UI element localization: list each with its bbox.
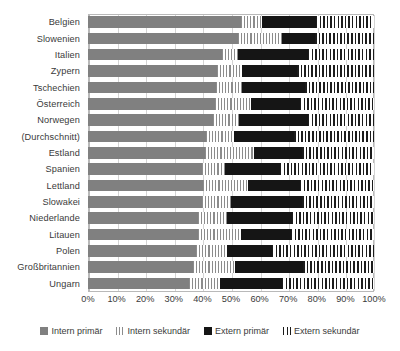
stacked-bar: [88, 229, 374, 241]
legend-item-intern-primaer[interactable]: Intern primär: [40, 326, 102, 336]
bar-row: [88, 96, 374, 112]
y-axis-label: Zypern: [0, 63, 84, 79]
bar-row: [88, 177, 374, 193]
bar-segment-intern-primaer: [88, 229, 198, 241]
stacked-bar: [88, 147, 374, 159]
legend-swatch-icon-intern-sekundaer: [116, 327, 124, 335]
bar-segment-intern-sekundaer: [238, 33, 282, 45]
y-axis-label: Norwegen: [0, 112, 84, 128]
bar-row: [88, 210, 374, 226]
bar-segment-extern-sekundaer: [292, 212, 374, 224]
bar-segment-intern-primaer: [88, 278, 189, 290]
x-axis-tick-labels: 0%10%20%30%40%50%60%70%80%90%100%: [88, 294, 374, 310]
y-axis-label: Niederlande: [0, 210, 84, 226]
legend-item-extern-sekundaer[interactable]: Extern sekundär: [283, 326, 360, 336]
bar-segment-intern-primaer: [88, 33, 238, 45]
bar-segment-extern-primaer: [220, 278, 283, 290]
bar-row: [88, 128, 374, 144]
bar-segment-intern-sekundaer: [217, 65, 243, 77]
gridline-100: [374, 15, 375, 291]
y-axis-label: Slowakei: [0, 194, 84, 210]
bar-row: [88, 112, 374, 128]
bar-segment-intern-sekundaer: [206, 131, 234, 143]
bar-segment-intern-primaer: [88, 147, 205, 159]
bar-segment-extern-primaer: [241, 229, 291, 241]
stacked-bar: [88, 212, 374, 224]
bar-segment-intern-sekundaer: [189, 278, 219, 290]
bar-segment-intern-primaer: [88, 65, 217, 77]
legend-swatch-icon-extern-primaer: [204, 327, 212, 335]
legend-item-extern-primaer[interactable]: Extern primär: [204, 326, 269, 336]
y-axis-label: Spanien: [0, 161, 84, 177]
stacked-bar: [88, 196, 374, 208]
bar-segment-extern-primaer: [239, 114, 308, 126]
bar-row: [88, 14, 374, 30]
bar-row: [88, 276, 374, 292]
bar-segment-intern-primaer: [88, 212, 198, 224]
bar-segment-extern-sekundaer: [316, 16, 374, 28]
bar-segment-intern-primaer: [88, 16, 241, 28]
x-axis-tick-label: 80%: [308, 294, 326, 304]
bar-row: [88, 194, 374, 210]
bar-segment-intern-primaer: [88, 261, 193, 273]
y-axis-label: Estland: [0, 145, 84, 161]
bar-segment-extern-primaer: [225, 163, 279, 175]
bar-segment-extern-primaer: [238, 49, 308, 61]
bar-segment-intern-sekundaer: [216, 82, 242, 94]
bar-segment-extern-sekundaer: [315, 33, 374, 45]
legend-label: Extern primär: [215, 326, 269, 336]
stacked-bar: [88, 131, 374, 143]
bar-segment-extern-sekundaer: [297, 65, 374, 77]
x-axis-tick-label: 20%: [136, 294, 154, 304]
bar-segment-extern-sekundaer: [302, 196, 374, 208]
x-axis-tick-label: 60%: [250, 294, 268, 304]
bar-segment-extern-sekundaer: [303, 261, 374, 273]
x-axis-tick-label: 90%: [336, 294, 354, 304]
bar-segment-extern-primaer: [282, 33, 315, 45]
bar-segment-extern-sekundaer: [291, 229, 374, 241]
bar-segment-intern-sekundaer: [193, 261, 235, 273]
stacked-bar: [88, 65, 374, 77]
y-axis-label: Großbritannien: [0, 259, 84, 275]
bar-segment-extern-primaer: [251, 98, 300, 110]
y-axis-label: Tschechien: [0, 79, 84, 95]
bar-segment-extern-primaer: [227, 245, 272, 257]
bar-segment-extern-sekundaer: [280, 163, 374, 175]
bar-segment-intern-sekundaer: [222, 49, 238, 61]
stacked-bar: [88, 163, 374, 175]
bar-row: [88, 47, 374, 63]
legend-label: Intern sekundär: [127, 326, 190, 336]
chart-legend: Intern primärIntern sekundärExtern primä…: [0, 326, 400, 336]
bar-segment-intern-primaer: [88, 98, 215, 110]
bar-row: [88, 63, 374, 79]
bar-segment-extern-primaer: [242, 65, 296, 77]
bar-segment-extern-sekundaer: [302, 147, 374, 159]
stacked-bar: [88, 98, 374, 110]
stacked-bar: [88, 114, 374, 126]
y-axis-label: Litauen: [0, 226, 84, 242]
legend-item-intern-sekundaer[interactable]: Intern sekundär: [116, 326, 190, 336]
bar-segment-extern-sekundaer: [294, 131, 374, 143]
stacked-bar: [88, 278, 374, 290]
legend-swatch-icon-intern-primaer: [40, 327, 48, 335]
y-axis-label: (Durchschnitt): [0, 128, 84, 144]
bar-segment-extern-sekundaer: [272, 245, 374, 257]
bar-segment-extern-sekundaer: [308, 49, 374, 61]
y-axis-label: Italien: [0, 47, 84, 63]
bar-segment-intern-primaer: [88, 131, 206, 143]
stacked-bar: [88, 261, 374, 273]
bar-segment-intern-sekundaer: [196, 245, 227, 257]
legend-label: Extern sekundär: [294, 326, 360, 336]
x-axis-tick-label: 0%: [81, 294, 94, 304]
bar-segment-extern-sekundaer: [282, 278, 374, 290]
bar-segment-extern-primaer: [242, 82, 305, 94]
bar-row: [88, 30, 374, 46]
x-axis-tick-label: 50%: [222, 294, 240, 304]
x-axis-tick-label: 40%: [193, 294, 211, 304]
bar-segment-intern-primaer: [88, 49, 222, 61]
stacked-bar: [88, 49, 374, 61]
stacked-bar: [88, 245, 374, 257]
x-axis-tick-label: 100%: [362, 294, 386, 304]
bar-segment-extern-primaer: [248, 180, 299, 192]
bar-row: [88, 259, 374, 275]
